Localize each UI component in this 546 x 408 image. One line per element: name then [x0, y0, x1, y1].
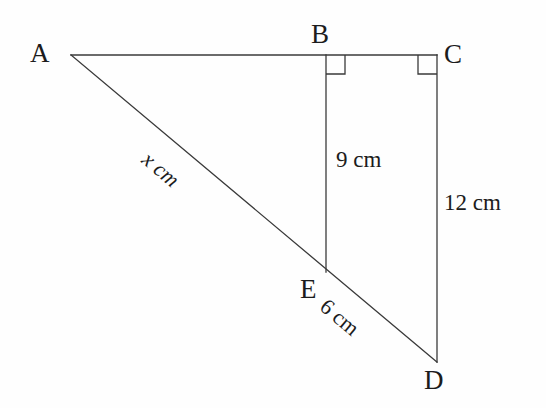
measure-label-cd: 12 cm — [444, 191, 501, 214]
vertex-label-d: D — [424, 367, 444, 394]
measure-label-be: 9 cm — [336, 148, 381, 171]
vertex-label-a: A — [30, 40, 50, 67]
vertex-label-e: E — [300, 276, 317, 303]
segment-ad — [71, 55, 437, 362]
right-angle-marker-c — [418, 55, 437, 74]
vertex-label-c: C — [444, 41, 462, 68]
right-angle-marker-b — [326, 55, 345, 74]
vertex-label-b: B — [311, 21, 329, 48]
diagram-canvas: A B C E D 9 cm 12 cm x cm 6 cm — [0, 0, 546, 408]
